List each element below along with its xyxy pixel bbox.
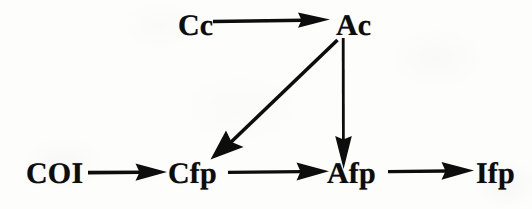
edge-ac-to-cfp: [211, 40, 338, 160]
edge-coi-to-cfp: [88, 164, 167, 181]
node-cfp[interactable]: Cfp: [168, 159, 217, 189]
edge-ac-to-afp: [335, 38, 352, 169]
flow-diagram: Cc Ac COI Cfp Afp Ifp: [0, 0, 532, 209]
node-ac[interactable]: Ac: [336, 11, 371, 41]
node-coi[interactable]: COI: [26, 159, 83, 189]
node-cc[interactable]: Cc: [178, 11, 213, 41]
edge-afp-to-ifp: [388, 162, 474, 180]
edge-cfp-to-afp: [228, 163, 329, 181]
node-ifp[interactable]: Ifp: [476, 159, 515, 189]
node-afp[interactable]: Afp: [327, 159, 376, 189]
edge-cc-to-ac: [213, 12, 330, 27]
